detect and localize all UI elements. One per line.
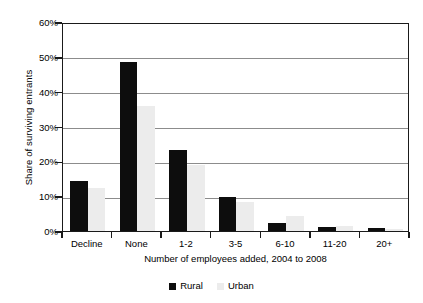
legend-label: Urban — [228, 280, 254, 292]
bar-group — [70, 24, 105, 231]
y-axis-tick-label: 30% — [18, 123, 58, 133]
bar-group — [120, 24, 155, 231]
x-axis-title: Number of employees added, 2004 to 2008 — [62, 253, 409, 265]
legend-entry-urban: Urban — [217, 280, 254, 292]
bar-rural-20- — [368, 228, 386, 231]
y-axis-tick-mark — [55, 196, 62, 197]
y-axis-tick-mark — [55, 231, 62, 232]
x-axis-tick-label: None — [125, 238, 148, 250]
x-axis-tick-label: 11-20 — [323, 238, 347, 250]
y-axis-tick-label: 20% — [18, 157, 58, 167]
x-axis-tick-label: Decline — [71, 238, 103, 250]
bar-group — [368, 24, 403, 231]
legend-entry-rural: Rural — [169, 280, 203, 292]
x-axis-tick-label: 20+ — [376, 238, 392, 250]
legend-label: Rural — [180, 280, 203, 292]
y-axis-tick-mark — [55, 92, 62, 93]
bar-group — [219, 24, 254, 231]
chart-legend: RuralUrban — [0, 280, 423, 292]
bar-rural-3-5 — [219, 197, 237, 231]
bar-group — [169, 24, 204, 231]
bar-urban-11-20 — [336, 226, 354, 231]
x-axis-tick-label: 3-5 — [229, 238, 243, 250]
y-axis-tick-mark — [55, 162, 62, 163]
bar-rural-decline — [70, 181, 88, 232]
y-axis-tick-mark — [55, 57, 62, 58]
bar-group — [318, 24, 353, 231]
y-axis-tick-mark — [55, 127, 62, 128]
urban-swatch — [217, 283, 224, 290]
bar-chart-figure: Share of surviving entrants 0%10%20%30%4… — [0, 0, 423, 303]
y-axis-tick-label: 60% — [18, 18, 58, 28]
bar-rural-11-20 — [318, 227, 336, 231]
rural-swatch — [169, 283, 176, 290]
x-axis-tick-label: 1-2 — [179, 238, 193, 250]
bar-rural-none — [120, 62, 138, 231]
bar-rural-6-10 — [268, 223, 286, 231]
y-axis-tick-label: 0% — [18, 227, 58, 237]
bars-layer — [63, 24, 408, 231]
x-axis-tick-labels: DeclineNone1-23-56-1011-2020+ — [62, 238, 409, 252]
bar-urban-none — [137, 106, 155, 231]
bar-urban-20- — [385, 229, 403, 231]
bar-group — [268, 24, 303, 231]
bar-urban-decline — [88, 188, 106, 231]
y-axis-tick-label: 10% — [18, 192, 58, 202]
y-axis-tick-label: 40% — [18, 88, 58, 98]
y-axis-tick-mark — [55, 22, 62, 23]
x-axis-tick-label: 6-10 — [276, 238, 295, 250]
bar-urban-3-5 — [236, 202, 254, 231]
bar-rural-1-2 — [169, 150, 187, 231]
bar-urban-6-10 — [286, 216, 304, 231]
y-axis-tick-labels: 0%10%20%30%40%50%60% — [18, 0, 58, 303]
bar-urban-1-2 — [187, 165, 205, 231]
plot-area — [62, 23, 409, 232]
y-axis-tick-label: 50% — [18, 53, 58, 63]
